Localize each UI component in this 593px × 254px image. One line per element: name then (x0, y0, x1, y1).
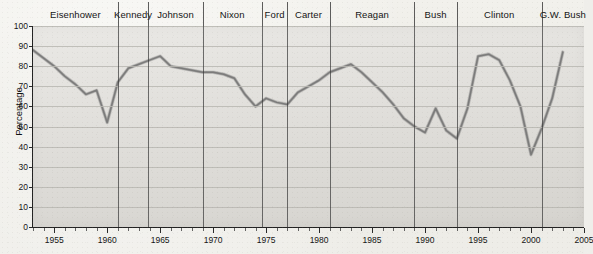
x-tick-major (54, 228, 55, 233)
x-tick-minor (234, 228, 235, 231)
president-label-nixon: Nixon (203, 2, 262, 26)
president-label-bush: Bush (414, 2, 456, 26)
president-label-reagan: Reagan (330, 2, 415, 26)
term-divider-carter (287, 26, 288, 227)
x-tick-major (478, 228, 479, 233)
x-tick-minor (457, 228, 458, 231)
x-tick-minor (414, 228, 415, 231)
gridline-horizontal (33, 127, 584, 128)
term-divider-ford (262, 26, 263, 227)
x-tick-minor (203, 228, 204, 231)
x-tick-minor (436, 228, 437, 231)
president-term-band: EisenhowerKennedyJohnsonNixonFordCarterR… (33, 2, 584, 26)
president-label-clinton: Clinton (457, 2, 542, 26)
term-divider-bush (414, 26, 415, 227)
x-tick-minor (383, 228, 384, 231)
x-tick-minor (510, 228, 511, 231)
gridline-horizontal (33, 66, 584, 67)
x-tick-major (266, 228, 267, 233)
president-label-ford: Ford (262, 2, 287, 26)
gridline-horizontal (33, 46, 584, 47)
x-tick-minor (446, 228, 447, 231)
y-tick-label: 30 (19, 162, 28, 172)
x-tick-minor (224, 228, 225, 231)
y-tick-label: 0 (23, 222, 28, 232)
gridline-horizontal (33, 86, 584, 87)
y-tick-label: 80 (19, 61, 28, 71)
x-tick-minor (44, 228, 45, 231)
x-tick-major (107, 228, 108, 233)
x-tick-minor (542, 228, 543, 231)
x-tick-minor (563, 228, 564, 231)
x-tick-minor (340, 228, 341, 231)
x-tick-minor (351, 228, 352, 231)
x-tick-minor (181, 228, 182, 231)
gridline-horizontal (33, 147, 584, 148)
president-label-g-w-bush: G.W. Bush (542, 2, 584, 26)
x-tick-major (372, 228, 373, 233)
x-tick-label: 2005 (575, 235, 593, 245)
term-divider-reagan (330, 26, 331, 227)
x-tick-major (584, 228, 585, 233)
x-tick-label: 1990 (416, 235, 435, 245)
x-tick-minor (330, 228, 331, 231)
y-tick-label: 90 (19, 41, 28, 51)
y-tick-label: 100 (14, 21, 28, 31)
x-tick-label: 1970 (204, 235, 223, 245)
x-tick-minor (404, 228, 405, 231)
y-axis-title: Percentage (13, 72, 24, 152)
x-tick-minor (171, 228, 172, 231)
x-tick-minor (33, 228, 34, 231)
x-tick-label: 1985 (363, 235, 382, 245)
x-tick-minor (139, 228, 140, 231)
y-tick-label: 20 (19, 182, 28, 192)
x-tick-minor (393, 228, 394, 231)
x-tick-major (213, 228, 214, 233)
gridline-horizontal (33, 207, 584, 208)
x-tick-minor (86, 228, 87, 231)
x-tick-label: 1980 (310, 235, 329, 245)
gridline-horizontal (33, 106, 584, 107)
y-axis-line (32, 26, 33, 228)
x-tick-minor (256, 228, 257, 231)
term-divider-g-w-bush (542, 26, 543, 227)
president-label-carter: Carter (287, 2, 329, 26)
y-tick-label: 10 (19, 202, 28, 212)
x-tick-minor (287, 228, 288, 231)
x-tick-label: 1995 (469, 235, 488, 245)
x-tick-label: 1960 (98, 235, 117, 245)
x-tick-minor (65, 228, 66, 231)
x-tick-minor (489, 228, 490, 231)
x-tick-minor (467, 228, 468, 231)
x-tick-minor (298, 228, 299, 231)
x-tick-minor (245, 228, 246, 231)
x-tick-minor (97, 228, 98, 231)
x-tick-minor (520, 228, 521, 231)
president-label-eisenhower: Eisenhower (33, 2, 118, 26)
x-tick-minor (361, 228, 362, 231)
x-tick-minor (150, 228, 151, 231)
x-tick-minor (75, 228, 76, 231)
x-tick-minor (573, 228, 574, 231)
x-tick-major (531, 228, 532, 233)
x-tick-minor (552, 228, 553, 231)
x-axis: 1955196019651970197519801985199019952000… (33, 228, 584, 254)
term-divider-kennedy (118, 26, 119, 227)
gridline-horizontal (33, 26, 584, 27)
x-tick-label: 1975 (257, 235, 276, 245)
x-tick-minor (128, 228, 129, 231)
x-tick-minor (499, 228, 500, 231)
x-tick-major (319, 228, 320, 233)
x-tick-label: 2000 (522, 235, 541, 245)
x-tick-label: 1965 (151, 235, 170, 245)
gridline-horizontal (33, 167, 584, 168)
term-divider-nixon (203, 26, 204, 227)
x-tick-minor (277, 228, 278, 231)
term-divider-clinton (457, 26, 458, 227)
x-tick-minor (118, 228, 119, 231)
president-label-johnson: Johnson (148, 2, 202, 26)
term-divider-johnson (148, 26, 149, 227)
x-tick-minor (192, 228, 193, 231)
x-tick-label: 1955 (45, 235, 64, 245)
